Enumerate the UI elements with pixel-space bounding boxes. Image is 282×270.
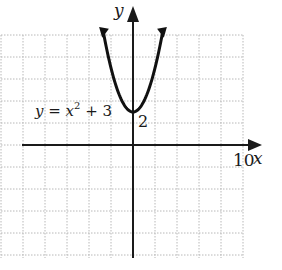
x-tick-label-10: 10 [233, 152, 255, 169]
equation-label: y = x2 + 3 [35, 101, 112, 119]
grid [1, 35, 243, 258]
equation-prefix: y = x [35, 102, 74, 120]
equation-suffix: + 3 [80, 102, 112, 120]
y-axis-label: y [114, 2, 124, 19]
y-axis-arrow-icon [127, 6, 139, 22]
y-tick-label-2: 2 [138, 114, 148, 130]
graph-canvas [0, 0, 282, 270]
